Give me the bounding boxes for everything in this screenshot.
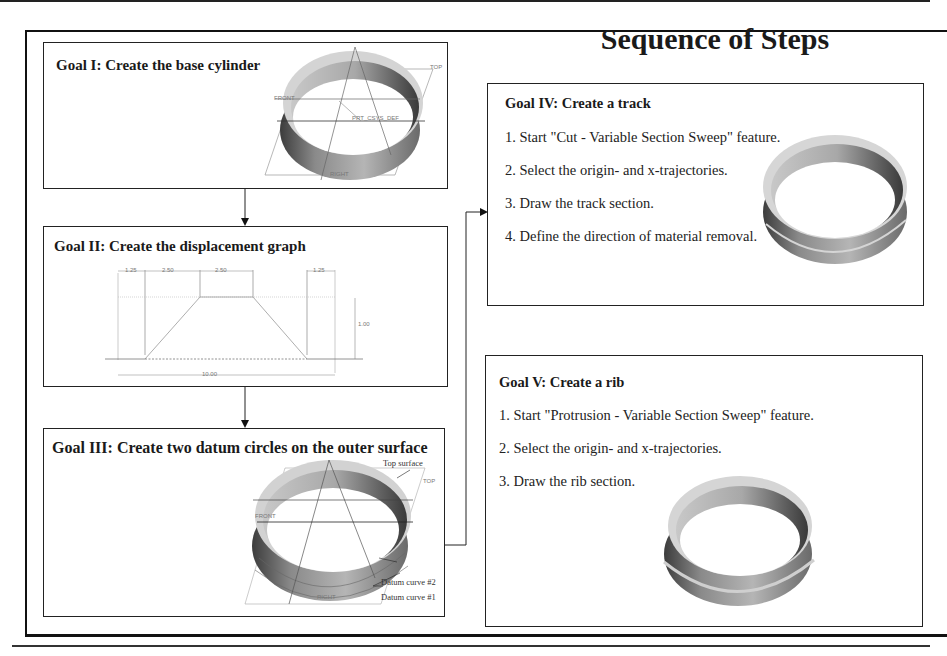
goal-5-title: Goal V: Create a rib [499,374,624,391]
arrow-goal1-to-goal2 [240,189,250,227]
top-rule [0,0,930,2]
goal-3-title: Goal III: Create two datum circles on th… [52,439,428,457]
dim-total-length: 10.00 [202,371,217,377]
goal-2-title: Goal II: Create the displacement graph [54,238,306,255]
goal-3-label-top: TOP [423,478,435,484]
dim-segment-3: 2.50 [215,267,227,273]
dim-height: 1.00 [358,321,370,327]
dim-segment-1: 1.25 [125,267,137,273]
goal-3-label-right: RIGHT [317,594,336,600]
rib-cylinder-figure [660,470,820,610]
goal-1-label-front: FRONT [274,95,295,101]
goal-4-step-1: 1. Start "Cut - Variable Section Sweep" … [505,129,780,146]
arrow-goal2-to-goal3 [240,387,250,429]
callout-top-surface: Top surface [383,458,423,468]
goal-1-label-right: RIGHT [330,171,349,177]
dim-segment-2: 2.50 [162,267,174,273]
track-cylinder-figure [760,132,915,267]
goal-1-title: Goal I: Create the base cylinder [56,57,260,74]
goal-4-step-2: 2. Select the origin- and x-trajectories… [505,162,728,179]
goal-4-step-4: 4. Define the direction of material remo… [505,228,757,245]
goal-1-label-top: TOP [430,64,442,70]
callout-datum-curve-1: Datum curve #1 [381,592,436,602]
arrow-goal3-to-goal4 [444,205,490,550]
bottom-rule [12,645,930,647]
dim-segment-4: 1.25 [313,267,325,273]
goal-5-step-3: 3. Draw the rib section. [499,473,635,490]
goal-4-title: Goal IV: Create a track [505,95,651,112]
goal-5-step-2: 2. Select the origin- and x-trajectories… [499,440,722,457]
callout-datum-curve-2: Datum curve #2 [381,577,436,587]
goal-5-step-1: 1. Start "Protrusion - Variable Section … [499,407,814,424]
goal-4-step-3: 3. Draw the track section. [505,195,654,212]
displacement-graph [105,265,365,380]
goal-3-label-front: FRONT [255,513,276,519]
goal-1-label-csys: PRT_CSYS_DEF [352,115,399,121]
page-title: Sequence of Steps [565,22,865,56]
